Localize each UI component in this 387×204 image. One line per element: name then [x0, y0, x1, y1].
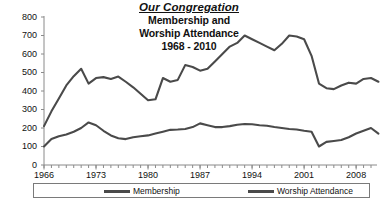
y-axis-tick-label: 0	[9, 161, 37, 170]
y-axis-tick-label: 100	[9, 142, 37, 151]
x-axis-tick-label: 1966	[27, 171, 61, 180]
legend-label: Membership	[133, 187, 180, 196]
legend-item-membership: Membership	[104, 186, 180, 197]
x-axis-tick-label: 1973	[79, 171, 113, 180]
y-axis-tick-label: 300	[9, 105, 37, 114]
y-axis-tick-label: 500	[9, 68, 37, 77]
y-axis-tick-label: 200	[9, 124, 37, 133]
legend-line-swatch-icon	[104, 190, 130, 193]
y-axis-tick-label: 400	[9, 87, 37, 96]
x-axis-tick-label: 2008	[339, 171, 373, 180]
legend-item-worship-attendance: Worship Attendance	[248, 186, 353, 197]
chart-legend: Membership Worship Attendance	[33, 183, 370, 198]
series-line	[44, 122, 378, 146]
x-axis-tick-label: 1987	[183, 171, 217, 180]
chart-container: Our Congregation Membership and Worship …	[0, 0, 387, 204]
y-axis-tick-label: 700	[9, 31, 37, 40]
x-axis-tick-label: 1980	[131, 171, 165, 180]
y-axis-tick-label: 800	[9, 13, 37, 22]
legend-label: Worship Attendance	[277, 187, 353, 196]
x-axis-tick-label: 2001	[287, 171, 321, 180]
y-axis-tick-label: 600	[9, 50, 37, 59]
legend-line-swatch-icon	[248, 190, 274, 193]
series-line	[44, 36, 378, 127]
x-axis-tick-label: 1994	[235, 171, 269, 180]
